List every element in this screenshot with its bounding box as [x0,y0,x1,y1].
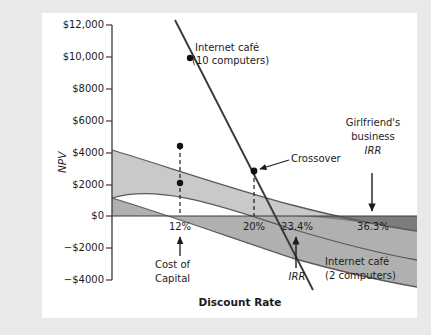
y-tick-minus4000: −$4000 [34,274,104,286]
x-tick-23-4pct: 23.4% [274,221,320,233]
y-tick-12000: $12,000 [40,19,104,31]
annotation-cost-of-capital-line2: Capital [155,273,190,285]
y-axis-ticks [106,25,112,280]
y-tick-2000: $2000 [40,179,104,191]
x-axis-title: Discount Rate [170,296,310,308]
y-tick-6000: $6000 [40,115,104,127]
x-tick-12pct: 12% [160,221,200,233]
annotation-internet-cafe-10-line1: Internet café [195,42,259,54]
crossover-arrow [260,160,289,169]
y-tick-0: $0 [40,210,104,222]
y-axis-title: NPV [56,152,68,173]
annotation-cost-of-capital-line1: Cost of [155,259,190,271]
marker-crossover [251,168,258,175]
annotation-internet-cafe-2-line2: (2 computers) [325,270,396,282]
y-tick-minus2000: −$2000 [34,242,104,254]
marker-cafe2-at-12pct [177,180,183,186]
annotation-irr: IRR [278,271,316,283]
annotation-girlfriend-line2: business [334,131,412,143]
y-tick-4000: $4000 [40,147,104,159]
annotation-internet-cafe-2-line1: Internet café [325,256,389,268]
y-tick-10000: $10,000 [40,51,104,63]
x-tick-36-3pct: 36.3% [348,221,398,233]
x-tick-20pct: 20% [234,221,274,233]
annotation-girlfriend-irr: IRR [334,145,412,157]
annotation-girlfriend-line1: Girlfriend's [334,117,412,129]
annotation-internet-cafe-10-line2: (10 computers) [192,55,269,67]
marker-girlfriend-at-12pct [177,143,183,149]
figure-panel: $12,000 $10,000 $8000 $6000 $4000 $2000 … [42,13,417,318]
y-tick-8000: $8000 [40,83,104,95]
